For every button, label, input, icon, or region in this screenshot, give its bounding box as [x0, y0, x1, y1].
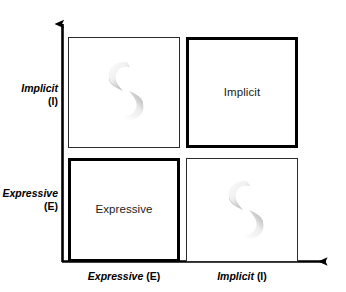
- x-axis-label-expressive: Expressive (E): [68, 270, 180, 283]
- x-axis-label-expressive-paren: (E): [143, 270, 160, 282]
- quadrant-bottom-left[interactable]: Expressive: [68, 158, 180, 262]
- y-axis-label-implicit: Implicit (I): [0, 82, 58, 109]
- quadrant-label-expressive: Expressive: [95, 204, 152, 216]
- swirl-mark-icon: [97, 58, 155, 124]
- swirl-mark-icon: [217, 177, 275, 243]
- quadrant-top-left[interactable]: [68, 37, 180, 148]
- y-axis-label-expressive-paren: (E): [0, 200, 58, 213]
- x-axis-label-implicit-term: Implicit: [217, 270, 254, 282]
- x-axis-label-implicit: Implicit (I): [186, 270, 298, 283]
- y-axis-label-implicit-term: Implicit: [21, 82, 58, 94]
- quadrant-bottom-right[interactable]: [186, 158, 298, 262]
- y-axis-label-expressive-term: Expressive: [3, 187, 58, 199]
- quadrant-top-right[interactable]: Implicit: [186, 37, 298, 148]
- quadrant-label-implicit: Implicit: [224, 87, 261, 99]
- y-axis-label-expressive: Expressive (E): [0, 187, 58, 214]
- y-axis-label-implicit-paren: (I): [0, 95, 58, 108]
- matrix-figure: Implicit Expressive Implicit (I) E: [0, 0, 346, 292]
- x-axis-label-expressive-term: Expressive: [88, 270, 143, 282]
- quadrant-grid: Implicit Expressive: [68, 37, 298, 262]
- x-axis-label-implicit-paren: (I): [254, 270, 267, 282]
